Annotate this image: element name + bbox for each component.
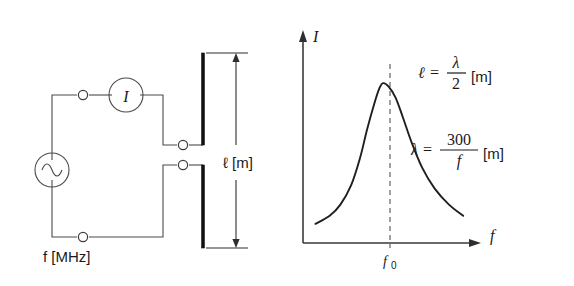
- formula-2-denominator: f: [457, 152, 464, 170]
- ammeter-symbol: I: [109, 78, 143, 112]
- wire-source-to-upper-terminal: [52, 95, 77, 160]
- formula-2-numerator: 300: [447, 131, 471, 148]
- formula-2-equals: =: [423, 141, 432, 158]
- formula-1-equals: =: [430, 64, 439, 81]
- x-tick-f0-sub: 0: [391, 260, 397, 271]
- formula-wavelength: λ = 300 f [m]: [410, 131, 504, 170]
- terminal-upper-left: [78, 90, 87, 99]
- terminal-antenna-upper: [178, 140, 187, 149]
- formula-antenna-length: ℓ = λ 2 [m]: [418, 54, 492, 92]
- x-tick-f0-main: f: [383, 254, 389, 269]
- wire-lower-terminal-to-antenna-lower: [89, 165, 177, 237]
- x-axis-label: f: [490, 227, 497, 245]
- terminal-lower-left: [78, 232, 87, 241]
- wire-source-to-lower-terminal: [52, 180, 77, 237]
- formula-2-lhs: λ: [410, 141, 418, 158]
- antenna-resonance-figure: I ℓ [m] f [MHz] I f: [0, 0, 574, 286]
- circuit-diagram-group: I ℓ [m] f [MHz]: [35, 53, 253, 265]
- formula-1-unit: [m]: [471, 68, 492, 85]
- source-frequency-label: f [MHz]: [43, 248, 91, 265]
- formula-2-unit: [m]: [483, 145, 504, 162]
- dimension-arrowhead-bottom: [232, 239, 239, 248]
- y-axis-arrowhead: [299, 30, 307, 42]
- formula-1-numerator: λ: [452, 54, 460, 71]
- antenna-rod-upper: [202, 53, 205, 145]
- dimension-arrowhead-top: [232, 53, 239, 62]
- y-axis-label: I: [312, 28, 319, 45]
- terminal-antenna-lower: [178, 160, 187, 169]
- formula-1-lhs: ℓ: [418, 64, 425, 81]
- antenna-rod-lower: [202, 165, 205, 248]
- antenna-length-label: ℓ [m]: [223, 154, 253, 171]
- resonance-curve: [315, 83, 463, 224]
- x-tick-f0: f 0: [383, 254, 397, 271]
- formula-1-denominator: 2: [452, 75, 460, 92]
- x-axis-arrowhead: [469, 239, 481, 247]
- ammeter-label: I: [122, 88, 129, 105]
- wire-meter-to-antenna-upper: [140, 95, 177, 145]
- antenna-length-dimension: ℓ [m]: [223, 53, 253, 248]
- sine-icon: [42, 164, 62, 176]
